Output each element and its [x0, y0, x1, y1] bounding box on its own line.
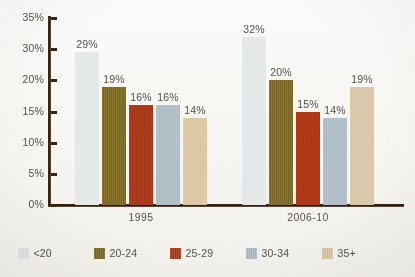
- y-axis-tick: [51, 142, 57, 145]
- bar: [75, 52, 99, 205]
- y-axis-tick: [51, 173, 57, 176]
- bar-chart: 35%30%20%15%10%5%0% 29%19%16%16%14%32%20…: [0, 0, 415, 277]
- legend-swatch-icon: [18, 248, 29, 259]
- bar-value-label: 14%: [318, 104, 352, 116]
- bar-value-label: 19%: [345, 73, 379, 85]
- y-axis-tick: [51, 48, 57, 51]
- y-axis-tick: [51, 111, 57, 114]
- legend-item[interactable]: 30-34: [246, 247, 322, 259]
- legend-item[interactable]: 25-29: [170, 247, 246, 259]
- bar: [242, 37, 266, 205]
- x-axis-category-label: 2006-10: [248, 211, 368, 223]
- legend-item[interactable]: 35+: [322, 247, 398, 259]
- bar-value-label: 32%: [237, 23, 271, 35]
- y-axis-labels: 35%30%20%15%10%5%0%: [0, 0, 44, 277]
- legend-label: <20: [34, 247, 52, 259]
- legend-item[interactable]: 20-24: [94, 247, 170, 259]
- legend-swatch-icon: [94, 248, 105, 259]
- bar: [350, 87, 374, 205]
- y-axis-tick-label: 10%: [2, 136, 44, 148]
- bar: [183, 118, 207, 205]
- y-axis-tick-label: 5%: [2, 167, 44, 179]
- bar-value-label: 14%: [178, 104, 212, 116]
- plot-area: 29%19%16%16%14%32%20%15%14%19%: [48, 18, 404, 205]
- bar: [323, 118, 347, 205]
- y-axis-tick-label: 30%: [2, 42, 44, 54]
- legend-swatch-icon: [322, 248, 333, 259]
- y-axis-tick: [51, 204, 57, 207]
- y-axis-tick-label: 0%: [2, 198, 44, 210]
- bar: [269, 80, 293, 205]
- legend-label: 30-34: [262, 247, 290, 259]
- y-axis-tick-label: 35%: [2, 11, 44, 23]
- legend-label: 20-24: [110, 247, 138, 259]
- legend-swatch-icon: [246, 248, 257, 259]
- x-axis-category-label: 1995: [81, 211, 201, 223]
- y-axis-tick: [51, 79, 57, 82]
- y-axis-tick-label: 15%: [2, 105, 44, 117]
- bar-group: 32%20%15%14%19%: [242, 18, 374, 205]
- bar-value-label: 19%: [97, 73, 131, 85]
- bar-value-label: 29%: [70, 38, 104, 50]
- bar: [129, 105, 153, 205]
- y-axis-tick-label: 20%: [2, 73, 44, 85]
- bar: [156, 105, 180, 205]
- bar-group: 29%19%16%16%14%: [75, 18, 207, 205]
- bar: [296, 112, 320, 206]
- legend-item[interactable]: <20: [18, 247, 94, 259]
- bar-value-label: 16%: [151, 91, 185, 103]
- legend-label: 35+: [338, 247, 356, 259]
- bar: [102, 87, 126, 205]
- y-axis-tick: [51, 17, 57, 20]
- chart-legend: <2020-2425-2930-3435+: [0, 242, 415, 264]
- legend-swatch-icon: [170, 248, 181, 259]
- legend-label: 25-29: [186, 247, 214, 259]
- bar-value-label: 20%: [264, 66, 298, 78]
